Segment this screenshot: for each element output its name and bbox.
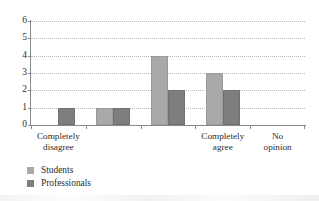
scan-artifact: [0, 195, 319, 201]
x-tick-mark: [141, 125, 142, 129]
y-tick-mark: [28, 56, 31, 57]
y-tick-label: 6: [22, 16, 27, 26]
x-tick-mark: [304, 125, 305, 129]
y-tick-label: 0: [22, 120, 27, 130]
bar-students-1: [96, 108, 113, 125]
y-tick-label: 3: [22, 68, 27, 78]
y-tick-mark: [28, 73, 31, 74]
legend-label: Professionals: [41, 179, 91, 188]
y-tick-label: 1: [22, 103, 27, 113]
legend-swatch-icon: [27, 180, 34, 187]
x-axis-line: [30, 125, 306, 126]
bar-students-2: [151, 56, 168, 125]
gridline: [31, 56, 305, 57]
y-tick-mark: [28, 108, 31, 109]
y-tick-mark: [28, 90, 31, 91]
x-axis-label: Completely agree: [201, 131, 244, 152]
x-tick-mark: [86, 125, 87, 129]
gridline: [31, 38, 305, 39]
legend-item: Students: [27, 164, 91, 177]
legend-label: Students: [41, 166, 73, 175]
x-tick-mark: [31, 125, 32, 129]
bar-professionals-2: [168, 90, 185, 125]
y-tick-mark: [28, 21, 31, 22]
bar-professionals-1: [113, 108, 130, 125]
legend-item: Professionals: [27, 177, 91, 190]
y-tick-label: 5: [22, 34, 27, 44]
y-tick-label: 4: [22, 51, 27, 61]
gridline: [31, 21, 305, 22]
plot-area: 0123456: [31, 21, 305, 125]
y-tick-label: 2: [22, 86, 27, 96]
x-tick-mark: [195, 125, 196, 129]
y-tick-mark: [28, 38, 31, 39]
x-axis-label: No opinion: [257, 131, 298, 152]
bar-students-3: [206, 73, 223, 125]
legend-swatch-icon: [27, 167, 34, 174]
bar-professionals-0: [58, 108, 75, 125]
chart-legend: StudentsProfessionals: [27, 164, 91, 190]
x-tick-mark: [250, 125, 251, 129]
x-axis-label: Completely disagree: [37, 131, 80, 152]
gridline: [31, 73, 305, 74]
bar-chart: 0123456 Completely disagreeCompletely ag…: [0, 0, 319, 201]
bar-professionals-3: [223, 90, 240, 125]
